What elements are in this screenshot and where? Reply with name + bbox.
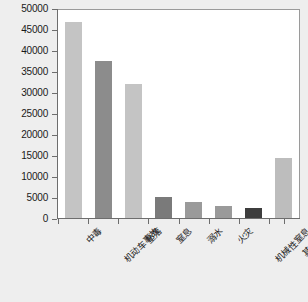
x-axis-tick-label: 坠落	[145, 226, 165, 246]
bar	[185, 202, 202, 218]
y-axis-tick-mark	[52, 9, 57, 10]
y-axis-tick-mark	[52, 51, 57, 52]
x-axis-tick-label: 机动车事故	[122, 226, 161, 265]
y-axis-tick-mark	[52, 156, 57, 157]
x-axis-tick-mark	[58, 219, 59, 224]
y-axis-tick-mark	[52, 135, 57, 136]
x-axis-tick-mark	[269, 219, 270, 224]
x-axis-tick-label: 中毒	[84, 226, 104, 246]
y-axis-tick-mark	[52, 30, 57, 31]
y-axis-tick-label: 25000	[21, 109, 48, 119]
bar	[155, 197, 172, 218]
y-axis-tick-label: 15000	[21, 151, 48, 161]
x-axis-tick-label: 溺水	[205, 226, 225, 246]
y-axis-tick-mark	[52, 177, 57, 178]
bar	[95, 61, 112, 218]
x-axis-tick-label: 窒息	[175, 226, 195, 246]
x-axis-tick-mark	[148, 219, 149, 224]
bar-chart-figure: 0500010000150002000025000300003500040000…	[0, 0, 308, 302]
bar	[65, 22, 82, 218]
y-axis-tick-label: 50000	[21, 4, 48, 14]
x-axis-tick-label: 火灾	[235, 226, 255, 246]
bar	[245, 208, 262, 218]
y-axis-tick-label: 40000	[21, 46, 48, 56]
bar-series	[58, 10, 299, 218]
bar	[125, 84, 142, 218]
y-axis-tick-label: 45000	[21, 25, 48, 35]
x-axis-tick-label: 机械性窒息	[273, 226, 308, 265]
x-axis-tick-mark	[88, 219, 89, 224]
y-axis-tick-label: 0	[43, 214, 48, 224]
x-axis-tick-mark	[118, 219, 119, 224]
y-axis-tick-mark	[52, 114, 57, 115]
x-axis-tick-mark	[209, 219, 210, 224]
x-axis-tick-label: 其他事件	[300, 226, 308, 259]
y-axis-tick-label: 35000	[21, 67, 48, 77]
y-axis-tick-label: 10000	[21, 172, 48, 182]
x-axis-tick-mark	[284, 219, 285, 224]
y-axis-tick-label: 5000	[27, 193, 48, 203]
y-axis-tick-label: 30000	[21, 88, 48, 98]
bar	[215, 206, 232, 218]
bar	[275, 158, 292, 218]
y-axis-tick-label: 20000	[21, 130, 48, 140]
y-axis-tick-mark	[52, 72, 57, 73]
x-axis-tick-mark	[179, 219, 180, 224]
y-axis-tick-mark	[52, 93, 57, 94]
y-axis-tick-mark	[52, 198, 57, 199]
x-axis-tick-mark	[239, 219, 240, 224]
y-axis-tick-mark	[52, 219, 57, 220]
